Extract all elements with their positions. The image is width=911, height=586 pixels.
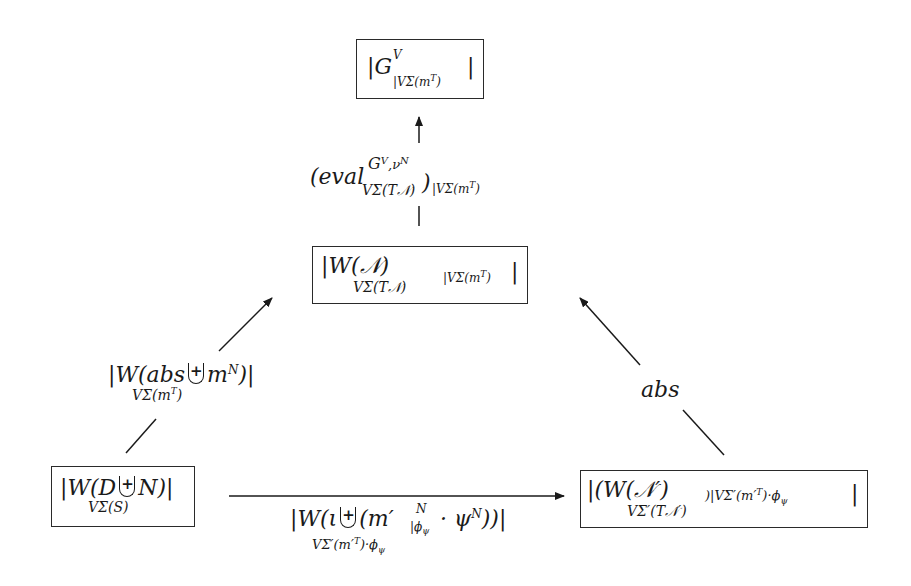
- node-bottom-right: |(W(𝒩′) VΣ′(T𝒩′) )|VΣ′(m′T)·ϕψ |: [580, 470, 868, 528]
- node-middle: |W(𝒩) VΣ(T𝒩) |VΣ(mT) |: [312, 246, 528, 304]
- biguplus-icon: +: [119, 476, 135, 498]
- node-bottom-right-sub: VΣ′(T𝒩′): [627, 503, 687, 520]
- edge-left-upper: [219, 298, 272, 351]
- node-middle-main: |W(𝒩): [321, 253, 389, 278]
- node-bottom-right-main: |(W(𝒩′): [587, 477, 669, 502]
- biguplus-icon: +: [188, 363, 204, 385]
- node-middle-close: |: [511, 259, 518, 284]
- edge-right-upper: [580, 298, 640, 365]
- node-top-sub: |VΣ(mT): [393, 73, 441, 89]
- node-bottom-right-restrict: )|VΣ′(m′T)·ϕψ: [705, 487, 788, 506]
- node-top-close: |: [467, 54, 474, 79]
- edge-bottom-label: |W(ι+(m′ N |ϕψ · ψN))| VΣ′(m′T)·ϕψ: [290, 506, 550, 562]
- node-top: |G V |VΣ(mT) |: [356, 39, 484, 99]
- biguplus-icon: +: [340, 507, 356, 529]
- edge-right-lower: [683, 410, 724, 455]
- edge-right-label: abs: [641, 377, 680, 402]
- node-top-sup: V: [393, 48, 402, 62]
- node-bottom-right-close: |: [851, 481, 858, 506]
- edge-left-label: |W(abs+mN)| VΣ(mT): [108, 362, 278, 412]
- node-bottom-left: |W(D+N)| VΣ(S): [51, 466, 195, 527]
- node-top-main: |G: [367, 54, 392, 79]
- edge-eval-label: (eval GV,νN VΣ(T𝒩) ) |VΣ(mT): [310, 150, 550, 206]
- node-bottom-left-sub: VΣ(S): [88, 499, 129, 515]
- edge-left-lower: [126, 419, 156, 453]
- node-middle-sub: VΣ(T𝒩): [353, 279, 406, 296]
- node-middle-restrict: |VΣ(mT): [443, 269, 491, 285]
